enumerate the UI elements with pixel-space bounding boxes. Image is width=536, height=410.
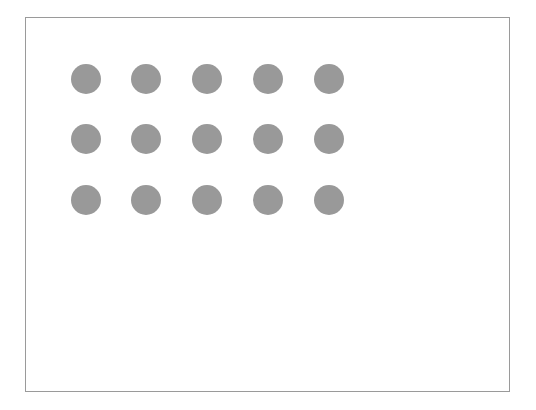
grid-dot: [314, 185, 344, 215]
grid-dot: [314, 124, 344, 154]
grid-dot: [131, 124, 161, 154]
grid-dot: [314, 64, 344, 94]
grid-dot: [253, 185, 283, 215]
figure-canvas: [0, 0, 536, 410]
grid-dot: [192, 64, 222, 94]
grid-dot: [71, 124, 101, 154]
grid-dot: [71, 185, 101, 215]
bordered-panel: [25, 17, 510, 392]
grid-dot: [253, 124, 283, 154]
grid-dot: [253, 64, 283, 94]
grid-dot: [192, 185, 222, 215]
grid-dot: [71, 64, 101, 94]
grid-dot: [131, 64, 161, 94]
grid-dot: [192, 124, 222, 154]
grid-dot: [131, 185, 161, 215]
circle-grid: [26, 18, 511, 393]
